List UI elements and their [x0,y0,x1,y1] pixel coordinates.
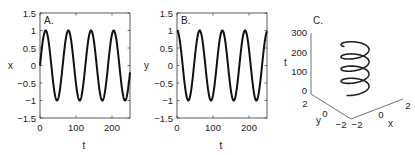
panel-b-frame [177,13,267,118]
panel-b-cosine-curve [177,31,267,101]
y-tick-label: −0.5 [154,78,173,89]
x-tick-label: 0 [37,122,42,133]
panel-b-label: B. [181,15,190,26]
y-tick-label: 0 [31,60,36,71]
panel-c-ytick: −2 [336,119,347,130]
panel-c-xtick: 0 [378,109,383,120]
y-tick-label: 0.5 [23,43,36,54]
figure: 1.510.50−0.5−1−1.5 0100200 A. x t 1.510.… [0,0,415,155]
y-tick-label: 1.5 [23,8,36,19]
y-tick-label: 1.5 [160,8,173,19]
panel-c-x-axis [351,99,403,119]
panel-c-ytick: 2 [302,98,307,109]
panel-c-xlabel: x [388,118,393,129]
y-tick-label: −1.5 [17,113,36,124]
panel-a-xlabel: t [83,140,86,151]
panel-c-ztick: 300 [291,27,307,38]
panel-c-ztick: 0 [302,85,307,96]
panel-a-label: A. [44,15,53,26]
panel-b: 1.510.50−0.5−1−1.5 0100200 B. y t [144,8,267,152]
panel-c-xtick: 2 [405,100,410,111]
panel-a-sine-curve [40,31,130,101]
panel-c-ztick: 200 [291,47,307,58]
panel-c-ylabel: y [316,115,321,126]
panel-c-zlabel: t [284,57,287,68]
panel-b-xlabel: t [220,140,223,151]
y-tick-label: 0 [168,60,173,71]
y-tick-label: −1 [25,95,36,106]
x-tick-label: 0 [174,122,179,133]
y-tick-label: −1.5 [154,113,173,124]
panel-b-ylabel: y [144,60,149,71]
panel-c-ztick: 100 [291,66,307,77]
y-tick-label: 1 [31,25,36,36]
panel-c-ytick: 0 [322,108,327,119]
panel-a: 1.510.50−0.5−1−1.5 0100200 A. x t [8,8,130,152]
x-tick-label: 200 [104,122,120,133]
panel-c-xtick: −2 [352,119,363,130]
y-tick-label: −1 [162,95,173,106]
x-tick-label: 200 [241,122,257,133]
panel-c: C. 300 200 100 0 t 2 0 −2 y −2 0 2 x [284,15,411,130]
panel-c-helix-curve [341,42,369,96]
y-tick-label: 1 [168,25,173,36]
y-tick-label: 0.5 [160,43,173,54]
x-tick-label: 100 [68,122,84,133]
x-tick-label: 100 [205,122,221,133]
panel-c-label: C. [313,15,323,26]
y-tick-label: −0.5 [17,78,36,89]
panel-a-ylabel: x [8,60,13,71]
